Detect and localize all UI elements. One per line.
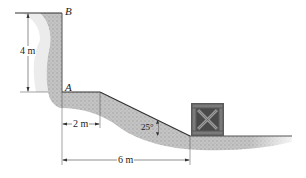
dimension-2m-label: 2 m bbox=[72, 119, 89, 129]
diagram-svg bbox=[0, 0, 306, 178]
crate bbox=[191, 103, 224, 136]
diagram: B A 4 m 2 m 6 m 25° bbox=[0, 0, 306, 178]
point-a-label: A bbox=[65, 82, 72, 93]
angle-label: 25° bbox=[141, 123, 154, 132]
dimension-6m-label: 6 m bbox=[117, 155, 134, 165]
dimension-4m-label: 4 m bbox=[19, 46, 36, 56]
point-b-label: B bbox=[65, 6, 72, 17]
